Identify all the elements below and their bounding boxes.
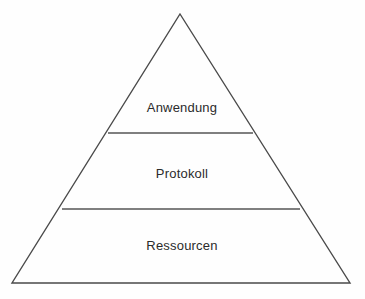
tier-label-ressourcen: Ressourcen	[146, 238, 217, 253]
pyramid-graphic	[0, 0, 365, 299]
tier-label-anwendung: Anwendung	[147, 100, 217, 115]
pyramid-diagram: Anwendung Protokoll Ressourcen	[0, 0, 365, 299]
tier-label-protokoll: Protokoll	[156, 166, 208, 181]
